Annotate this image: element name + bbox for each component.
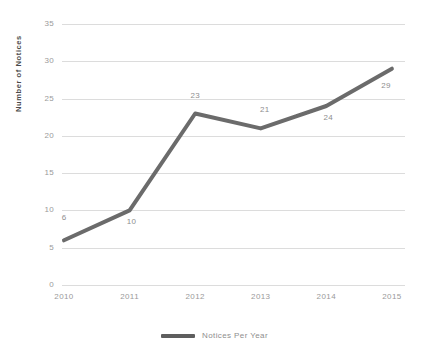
gridline — [62, 285, 405, 286]
gridline — [62, 210, 405, 211]
gridline — [62, 61, 405, 62]
line-chart: Number of Notices 05101520253035 2010201… — [0, 0, 429, 360]
gridline — [62, 248, 405, 249]
data-point-label: 24 — [308, 113, 348, 122]
chart-legend: Notices Per Year — [0, 331, 429, 340]
data-point-label: 6 — [44, 213, 84, 222]
series-plot-area — [0, 0, 429, 360]
y-tick-label: 20 — [28, 131, 54, 140]
data-point-label: 23 — [175, 91, 215, 100]
x-tick-label: 2010 — [40, 292, 88, 301]
gridline — [62, 173, 405, 174]
y-axis-title: Number of Notices — [14, 98, 23, 112]
y-tick-label: 5 — [28, 243, 54, 252]
x-tick-label: 2013 — [237, 292, 285, 301]
data-point-label: 29 — [366, 81, 406, 90]
x-tick-label: 2011 — [106, 292, 154, 301]
gridline — [62, 24, 405, 25]
data-point-label: 21 — [245, 105, 285, 114]
gridline — [62, 136, 405, 137]
legend-item-label: Notices Per Year — [202, 331, 268, 340]
y-tick-label: 30 — [28, 56, 54, 65]
data-point-label: 10 — [112, 217, 152, 226]
series-line-notices-per-year — [64, 69, 392, 241]
y-tick-label: 35 — [28, 19, 54, 28]
y-tick-label: 25 — [28, 94, 54, 103]
y-tick-label: 15 — [28, 168, 54, 177]
gridline — [62, 99, 405, 100]
y-tick-label: 0 — [28, 280, 54, 289]
x-tick-label: 2015 — [368, 292, 416, 301]
x-tick-label: 2012 — [171, 292, 219, 301]
line-swatch-icon — [161, 334, 195, 338]
x-tick-label: 2014 — [302, 292, 350, 301]
